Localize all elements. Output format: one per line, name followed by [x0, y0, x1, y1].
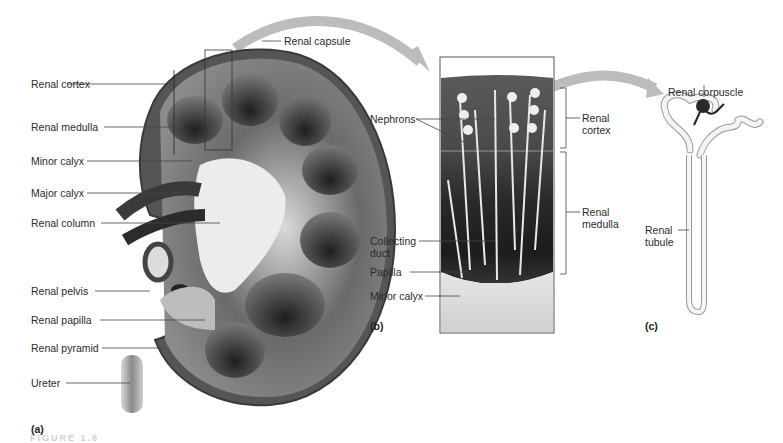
- figure-caption-faint: FIGURE 1.6: [30, 433, 99, 443]
- label-renal-cortex-b-line1: Renal: [582, 112, 609, 124]
- label-renal-capsule: Renal capsule: [284, 35, 351, 47]
- label-collecting-duct-line1: Collecting: [370, 235, 416, 247]
- label-renal-cortex-b-line2: cortex: [582, 124, 611, 136]
- label-renal-medulla-b-line2: medulla: [582, 218, 619, 230]
- label-collecting-duct-line2: duct: [370, 247, 390, 259]
- label-renal-corpuscle: Renal corpuscle: [668, 86, 743, 98]
- label-nephrons: Nephrons: [370, 113, 416, 125]
- label-renal-papilla: Renal papilla: [31, 314, 92, 326]
- label-major-calyx: Major calyx: [31, 187, 84, 199]
- label-renal-medulla-a: Renal medulla: [31, 121, 98, 133]
- label-ureter: Ureter: [31, 377, 60, 389]
- label-minor-calyx-b: Minor calyx: [370, 290, 423, 302]
- label-renal-pyramid: Renal pyramid: [31, 342, 99, 354]
- panel-tag-b: (b): [370, 320, 383, 332]
- label-renal-tubule-line2: tubule: [645, 236, 674, 248]
- kidney-diagram-artwork: [0, 0, 783, 443]
- label-renal-pelvis: Renal pelvis: [31, 285, 88, 297]
- label-renal-tubule-line1: Renal: [645, 224, 672, 236]
- panel-tag-c: (c): [645, 320, 658, 332]
- label-renal-cortex-a: Renal cortex: [31, 78, 90, 90]
- label-renal-medulla-b-line1: Renal: [582, 206, 609, 218]
- label-renal-column: Renal column: [31, 217, 95, 229]
- label-papilla: Papilla: [370, 266, 402, 278]
- label-minor-calyx-a: Minor calyx: [31, 155, 84, 167]
